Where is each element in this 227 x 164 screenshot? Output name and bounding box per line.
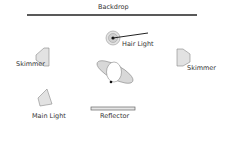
lighting-diagram — [0, 0, 227, 164]
reflector-label: Reflector — [100, 113, 129, 120]
reflector-icon — [91, 107, 135, 110]
skimmer-right-label: Skimmer — [187, 65, 216, 72]
backdrop-label: Backdrop — [98, 4, 129, 11]
subject-icon — [94, 56, 136, 87]
hair-light-label: Hair Light — [122, 41, 154, 48]
skimmer-left-label: Skimmer — [16, 61, 45, 68]
main-light-icon — [38, 89, 52, 106]
main-light-label: Main Light — [32, 113, 66, 120]
